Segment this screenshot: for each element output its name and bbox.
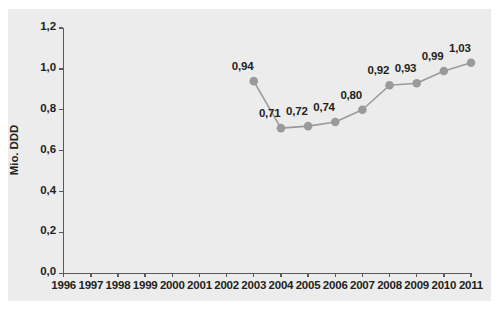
data-series	[0, 0, 499, 314]
data-point-label: 0,92	[368, 64, 390, 76]
data-point-marker	[304, 122, 313, 131]
data-point-label: 0,94	[232, 60, 254, 72]
data-point-label: 1,03	[449, 42, 471, 54]
data-point-marker	[277, 124, 286, 133]
data-point-marker	[331, 118, 340, 127]
data-point-marker	[440, 67, 449, 76]
data-point-label: 0,93	[395, 62, 417, 74]
data-point-marker	[467, 58, 476, 67]
data-point-label: 0,71	[259, 107, 281, 119]
data-point-marker	[385, 81, 394, 90]
data-point-label: 0,80	[340, 89, 362, 101]
data-point-label: 0,99	[422, 50, 444, 62]
data-point-marker	[412, 79, 421, 88]
series-line	[254, 63, 471, 128]
data-point-marker	[358, 105, 367, 114]
series-markers	[249, 58, 475, 132]
data-point-marker	[249, 77, 258, 86]
data-point-label: 0,74	[313, 101, 335, 113]
data-point-label: 0,72	[286, 105, 308, 117]
chart-figure: Mio. DDD 0,00,20,40,60,81,01,2 199619971…	[0, 0, 499, 314]
